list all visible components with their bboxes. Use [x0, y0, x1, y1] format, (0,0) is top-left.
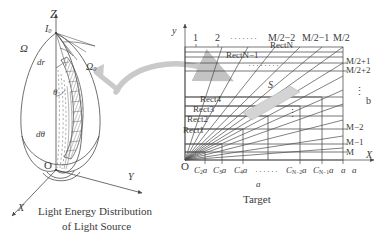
row-vertical-dots: ⋮: [354, 86, 365, 97]
omega0-label: Ω0: [86, 62, 96, 73]
x-dim-label-a: a: [352, 166, 357, 175]
origin-label-left: O: [44, 160, 52, 171]
side-label-b: b: [366, 96, 371, 106]
apex-point: [55, 32, 57, 34]
x-tick-label-c4a: C4a: [234, 166, 247, 176]
s-label: S: [268, 80, 273, 90]
row-label-m2p2: M/2+2: [346, 66, 371, 75]
figure-canvas: Z I0 Ω dr θ Ω0 dθ O Y X Light Energy Dis…: [0, 0, 384, 240]
interior-strands: [57, 70, 66, 169]
origin-point: [55, 169, 57, 171]
x-tick-label-c3a: C3a: [213, 166, 226, 176]
top-tick-marks: [196, 44, 218, 47]
apex-arc-2: [63, 42, 95, 46]
mapping-arrow: [92, 64, 214, 100]
rect-label-rect4: Rect4: [200, 95, 221, 104]
row-label-m-2: M−2: [346, 123, 364, 132]
bottom-dim-a: a: [256, 180, 261, 189]
top-col-label-m2-1: M/2−1: [302, 33, 329, 43]
row-label-m: M: [346, 148, 354, 157]
intensity-label: I0: [45, 24, 51, 35]
y-axis-label-left: Y: [128, 172, 134, 182]
rect-label-rectN-1: RectN−1: [226, 51, 259, 60]
x-tick-marks: [205, 160, 343, 164]
x-tick-label-a: a: [341, 166, 346, 175]
light-source-diagram: [12, 14, 142, 216]
bottom-dots: ······: [255, 167, 279, 176]
dr-ticks: [56, 64, 62, 68]
top-col-label-m2: M/2: [333, 33, 350, 43]
top-col-label-2: 2: [215, 33, 220, 43]
left-caption-line1: Light Energy Distribution: [38, 206, 152, 217]
theta-label: θ: [53, 88, 57, 97]
rect-label-rectN: RectN: [270, 41, 293, 50]
rect-label-rect3: Rect3: [193, 105, 214, 114]
hatched-band: [61, 57, 83, 159]
top-dots: ·······: [230, 34, 258, 43]
dtheta-label: dθ: [36, 130, 45, 139]
grid-vertical-dots: ⋮: [287, 108, 298, 119]
target-x-axis-label: X: [366, 150, 372, 160]
row-label-m-1: M−1: [346, 138, 364, 147]
omega-label: Ω: [20, 43, 28, 54]
lobe-base-arc: [22, 136, 99, 165]
dr-label: dr: [37, 58, 45, 67]
x-tick-label-cn-2a: CN−2a: [286, 166, 306, 176]
z-axis-label: Z: [50, 8, 57, 20]
top-col-label-1: 1: [193, 33, 198, 43]
left-caption-line2: of Light Source: [62, 221, 131, 232]
x-tick-label-cn-1a: CN−1a: [313, 166, 333, 176]
target-y-axis-label: y: [172, 26, 176, 36]
x-tick-label-c2a: C2a: [194, 166, 207, 176]
mid-dots: ········: [248, 61, 280, 70]
rect-label-rect1: Rect1: [183, 126, 204, 135]
rect-label-rect2: Rect2: [187, 115, 208, 124]
target-origin-label: O: [181, 161, 189, 172]
target-caption: Target: [243, 194, 271, 205]
x-axis-label-left: X: [18, 203, 24, 213]
